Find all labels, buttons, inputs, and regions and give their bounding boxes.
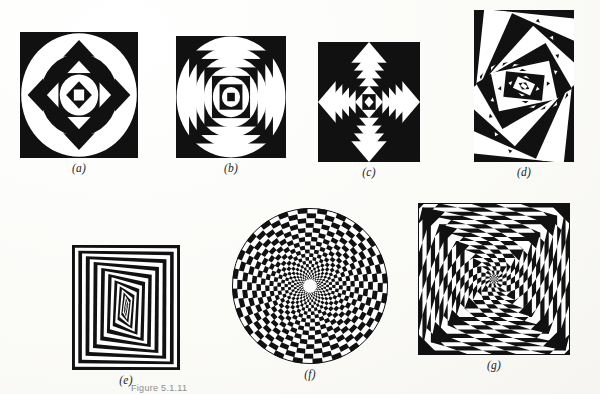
figure-d-label: (d): [474, 166, 574, 178]
figure-g-label: (g): [418, 359, 570, 371]
figure-f-label: (f): [232, 368, 388, 380]
figure-a-artwork: [20, 32, 138, 158]
figure-panel-e: (e): [72, 245, 180, 390]
figure-panel-c: (c): [318, 42, 420, 182]
figure-g-artwork: [418, 203, 570, 355]
figure-panel-b: (b): [176, 36, 286, 178]
figure-d-artwork: [474, 10, 574, 162]
plate-caption: Figure 5.1.11: [131, 383, 187, 393]
figure-panel-g: (g): [418, 203, 570, 375]
figure-panel-a: (a): [20, 32, 138, 178]
figure-a-label: (a): [20, 162, 138, 174]
figure-panel-f: (f): [232, 208, 388, 384]
figure-c-artwork: [318, 42, 420, 162]
figure-b-label: (b): [176, 162, 286, 174]
figure-panel-d: (d): [474, 10, 574, 182]
figure-c-label: (c): [318, 166, 420, 178]
figure-f-artwork: [232, 208, 388, 364]
figure-e-artwork: [72, 245, 180, 370]
figure-b-artwork: [176, 36, 286, 158]
